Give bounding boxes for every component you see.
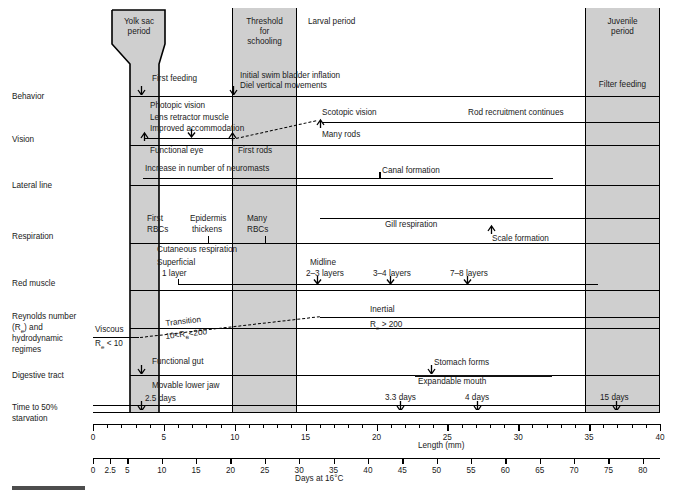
filter-feeding-label: Filter feeding [585, 80, 660, 91]
superficial-start-tick [178, 279, 179, 285]
days-axis-label: 40 [353, 466, 383, 475]
days-tick [471, 458, 472, 464]
juvenile-right-border [659, 8, 660, 413]
days-tick [196, 458, 197, 464]
neuromasts-span [143, 178, 553, 179]
days-tick [368, 458, 369, 464]
layers-34-arrow [386, 275, 395, 285]
first-rods-label: First rods [238, 146, 272, 157]
length-tick [121, 424, 122, 428]
juvenile-title-line2: period [585, 27, 660, 38]
days-tick [437, 458, 438, 464]
days-33-arrow [396, 400, 405, 410]
row-label-starvation-1: Time to 50% [12, 402, 58, 413]
length-tick [561, 424, 562, 428]
schooling-title-line1: Threshold [232, 17, 297, 28]
swim-bladder-label: Initial swim bladder inflation [240, 71, 340, 82]
many-rbcs-label-line1: Many [247, 214, 267, 225]
cutaneous-respiration-span [143, 243, 506, 244]
improved-accommodation-arrow [187, 128, 196, 138]
days-axis-label: 75 [593, 466, 623, 475]
rod-recruitment-label: Rod recruitment continues [468, 108, 564, 119]
length-tick [320, 424, 321, 428]
juvenile-band [585, 8, 660, 413]
functional-eye-arrow [140, 131, 149, 141]
scale-formation-arrow [487, 224, 496, 234]
length-tick [603, 424, 604, 428]
days-4-arrow [473, 400, 482, 410]
days-tick [110, 458, 111, 464]
divider-digestive [130, 375, 660, 376]
days-tick [93, 458, 94, 464]
length-tick [547, 424, 548, 428]
days-axis-label: 80 [628, 466, 658, 475]
yolk-sac-title-line2: period [112, 27, 166, 38]
schooling-title-line2: for [232, 27, 297, 38]
length-tick [447, 424, 448, 431]
length-tick [306, 424, 307, 431]
length-axis-label: 20 [362, 433, 392, 442]
first-feeding-arrow [137, 85, 146, 95]
length-tick [206, 424, 207, 428]
divider-red-muscle [130, 290, 660, 291]
photopic-vision-span [145, 138, 235, 139]
functional-eye-label: Functional eye [150, 146, 203, 157]
row-label-digestive-tract: Digestive tract [12, 370, 64, 381]
divider-lateral-line [130, 185, 660, 186]
juvenile-title-line1: Juvenile [585, 17, 660, 28]
days-tick [265, 458, 266, 464]
row-label-starvation-2: starvation [12, 413, 48, 424]
days-tick [402, 458, 403, 464]
divider-vision [130, 145, 660, 146]
days-15-arrow [612, 400, 621, 410]
days-tick [643, 458, 644, 464]
figure-canvas: Yolk sac period Threshold for schooling … [0, 0, 675, 493]
length-tick [362, 424, 363, 428]
viscous-re-label: Re < 10 [95, 339, 123, 352]
length-axis-label: 35 [574, 433, 604, 442]
expandable-mouth-label: Expandable mouth [418, 377, 486, 388]
days-tick [608, 458, 609, 464]
row-label-lateral-line: Lateral line [12, 180, 52, 191]
schooling-left-border [232, 8, 233, 413]
row-label-reynolds-4: regimes [12, 344, 41, 355]
row-label-reynolds-1: Reynolds number [12, 311, 76, 322]
gill-respiration-label: Gill respiration [385, 220, 437, 231]
lens-retractor-label: Lens retractor muscle [150, 113, 229, 124]
length-tick [405, 424, 406, 428]
many-rbcs-label-line2: RBCs [247, 225, 268, 236]
length-tick [164, 424, 165, 431]
row-label-vision: Vision [12, 134, 34, 145]
first-rbcs-label-line2: RBCs [147, 225, 168, 236]
swim-bladder-arrow [229, 85, 238, 95]
row-label-behavior: Behavior [12, 91, 44, 102]
functional-gut-arrow [137, 364, 146, 374]
length-tick [575, 424, 576, 428]
length-axis-label: 10 [220, 433, 250, 442]
length-tick [221, 424, 222, 428]
photopic-vision-label: Photopic vision [150, 101, 205, 112]
length-tick [504, 424, 505, 428]
length-tick [291, 424, 292, 428]
length-tick [277, 424, 278, 428]
days-axis-label: 60 [490, 466, 520, 475]
midline-arrow [313, 275, 322, 285]
length-tick [192, 424, 193, 428]
superficial-label-line1: Superficial [157, 258, 195, 269]
length-tick [348, 424, 349, 428]
length-tick [263, 424, 264, 428]
first-rbcs-label-line1: First [147, 214, 163, 225]
gill-respiration-span [320, 218, 660, 219]
days-tick [127, 458, 128, 464]
days-axis-label: 70 [559, 466, 589, 475]
days-axis-label: 20 [215, 466, 245, 475]
row-label-red-muscle: Red muscle [12, 278, 55, 289]
length-axis-label: 15 [291, 433, 321, 442]
epidermis-label-line2: thickens [192, 225, 222, 236]
row-label-respiration: Respiration [12, 231, 53, 242]
length-axis-label: 30 [503, 433, 533, 442]
length-tick [419, 424, 420, 428]
length-tick [178, 424, 179, 428]
row-label-reynolds-3: hydrodynamic [12, 333, 63, 344]
days-25-label: 2.5 days [145, 394, 176, 405]
